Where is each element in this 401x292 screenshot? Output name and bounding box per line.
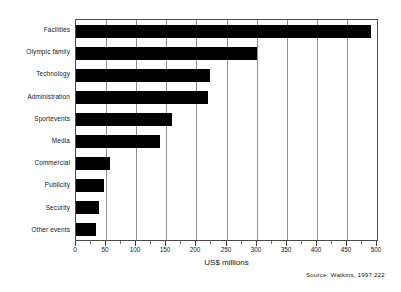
bar-row [76, 130, 377, 152]
horizontal-bar-chart: Facilities Olympic family Technology Adm… [0, 0, 401, 292]
x-tick-minor [90, 241, 91, 244]
bar-row [76, 174, 377, 196]
bar [76, 25, 371, 38]
bar [76, 157, 110, 170]
bar [76, 69, 210, 82]
category-label: Commercial [0, 152, 74, 174]
bar [76, 91, 208, 104]
category-label: Facilities [0, 19, 74, 41]
plot-area [75, 19, 378, 241]
category-axis: Facilities Olympic family Technology Adm… [0, 19, 74, 241]
bar [76, 135, 160, 148]
category-label: Technology [0, 63, 74, 85]
x-tick-minor [301, 241, 302, 244]
x-tick-label: 100 [130, 247, 141, 253]
bar-row [76, 64, 377, 86]
bars-layer [76, 20, 377, 240]
bar-row [76, 86, 377, 108]
bar [76, 113, 172, 126]
x-tick-minor [241, 241, 242, 244]
x-tick-minor [180, 241, 181, 244]
x-tick-label: 200 [190, 247, 201, 253]
x-tick-label: 350 [281, 247, 292, 253]
x-tick-minor [361, 241, 362, 244]
bar [76, 201, 99, 214]
x-tick-label: 0 [73, 247, 77, 253]
category-label: Administration [0, 86, 74, 108]
category-label: Sportevents [0, 108, 74, 130]
x-tick-minor [271, 241, 272, 244]
x-tick-minor [331, 241, 332, 244]
category-label: Media [0, 130, 74, 152]
x-axis-tick-labels: 050100150200250300350400450500 [75, 247, 378, 258]
x-tick-label: 500 [371, 247, 382, 253]
category-label: Other events [0, 219, 74, 241]
bar-row [76, 218, 377, 240]
x-tick-minor [120, 241, 121, 244]
bar-row [76, 20, 377, 42]
x-tick-minor [210, 241, 211, 244]
bar-row [76, 152, 377, 174]
x-tick-label: 300 [251, 247, 262, 253]
category-label: Publicity [0, 174, 74, 196]
x-tick-label: 50 [101, 247, 108, 253]
bar-row [76, 196, 377, 218]
bar-row [76, 108, 377, 130]
bar [76, 47, 257, 60]
x-tick-minor [150, 241, 151, 244]
x-tick-label: 150 [160, 247, 171, 253]
x-tick-label: 400 [311, 247, 322, 253]
bar [76, 179, 104, 192]
x-tick-label: 450 [341, 247, 352, 253]
category-label: Security [0, 197, 74, 219]
source-note: Source: Watkins, 1997:222 [306, 272, 385, 278]
category-label: Olympic family [0, 41, 74, 63]
x-tick-label: 250 [221, 247, 232, 253]
x-axis-title: US$ millions [75, 259, 378, 267]
bar-row [76, 42, 377, 64]
bar [76, 223, 96, 236]
